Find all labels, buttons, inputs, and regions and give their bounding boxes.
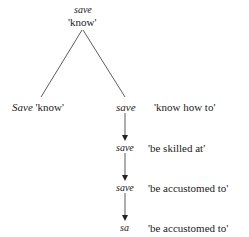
chain-gloss-1: 'know how to' <box>154 101 215 113</box>
arrow-1-head <box>122 135 128 141</box>
right-branch-line <box>83 30 125 97</box>
chain-gloss-2: 'be skilled at' <box>148 142 205 154</box>
arrow-3-head <box>122 215 128 221</box>
chain-form-1: save <box>116 101 136 113</box>
root-form: save <box>74 4 92 16</box>
chain-gloss-4: 'be accustomed to' <box>148 222 228 234</box>
left-node: Save 'know' <box>12 101 64 113</box>
chain-form-4: sa <box>120 222 129 234</box>
tree-lines <box>0 0 249 237</box>
left-node-form: Save <box>12 101 33 113</box>
chain-form-3: save <box>116 182 134 194</box>
arrow-2-head <box>122 175 128 181</box>
left-node-gloss: 'know' <box>36 101 64 113</box>
chain-form-2: save <box>116 142 134 154</box>
left-branch-line <box>41 30 82 97</box>
root-gloss: 'know' <box>68 16 96 28</box>
chain-gloss-3: 'be accustomed to' <box>148 182 228 194</box>
